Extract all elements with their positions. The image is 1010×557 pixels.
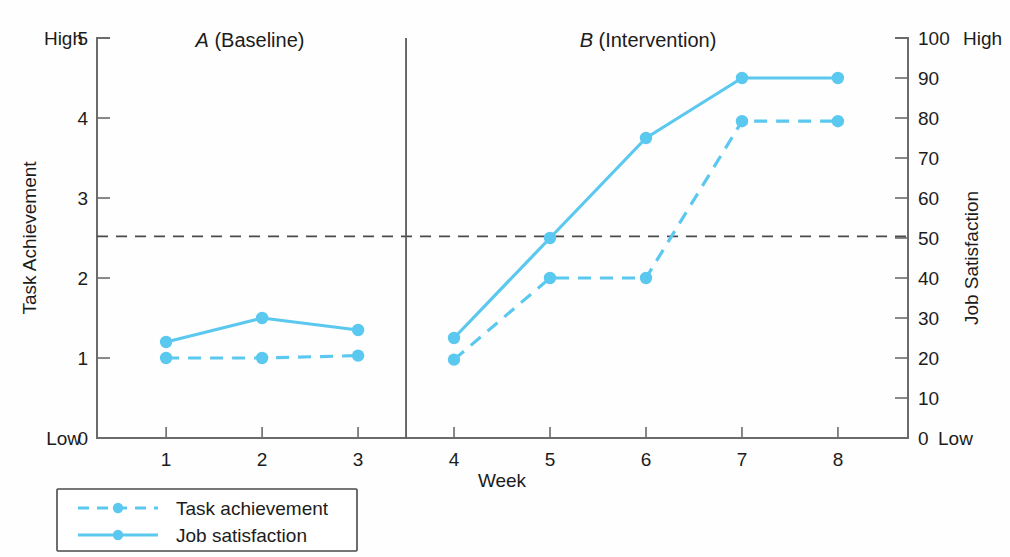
right-tick-label-100: 100: [918, 28, 950, 49]
right-axis-ticks: [895, 78, 908, 398]
line-chart-canvas: 012345 High Low Task Achievement 0102030…: [0, 0, 1010, 557]
right-tick-label-70: 70: [918, 148, 939, 169]
x-tick-label-6: 6: [641, 449, 652, 470]
legend-label: Task achievement: [176, 498, 329, 519]
right-axis-high-label: High: [963, 28, 1002, 49]
left-tick-label-3: 3: [77, 188, 88, 209]
data-point-week-8: [832, 72, 844, 84]
data-point-week-7: [736, 115, 748, 127]
right-tick-label-10: 10: [918, 388, 939, 409]
data-point-week-4: [448, 332, 460, 344]
data-point-week-3: [352, 324, 364, 336]
chart-figure: 012345 High Low Task Achievement 0102030…: [0, 0, 1010, 557]
series-job-satisfaction: [160, 72, 844, 348]
x-tick-label-4: 4: [449, 449, 460, 470]
data-point-week-6: [640, 132, 652, 144]
legend: Task achievementJob satisfaction: [57, 489, 357, 551]
left-axis-high-label: High: [44, 28, 83, 49]
data-point-week-2: [256, 312, 268, 324]
data-point-week-4: [448, 353, 460, 365]
left-tick-label-2: 2: [77, 268, 88, 289]
right-axis-tick-labels: 0102030405060708090100: [918, 28, 950, 449]
right-axis-low-label: Low: [938, 428, 973, 449]
left-axis-tick-labels: 012345: [77, 28, 88, 449]
left-axis-line: [97, 38, 110, 438]
data-point-week-8: [832, 115, 844, 127]
data-point-week-5: [544, 232, 556, 244]
right-tick-label-80: 80: [918, 108, 939, 129]
x-tick-label-2: 2: [257, 449, 268, 470]
x-axis-group: 12345678 Week: [97, 427, 908, 491]
right-axis-group: 0102030405060708090100 High Low Job Sati…: [895, 28, 1002, 449]
series-segment-phase-b: [454, 121, 838, 359]
data-point-week-1: [160, 336, 172, 348]
right-tick-label-60: 60: [918, 188, 939, 209]
left-tick-label-1: 1: [77, 348, 88, 369]
series-task-achievement: [160, 115, 844, 366]
phase-b-letter: B: [580, 29, 593, 51]
x-tick-label-5: 5: [545, 449, 556, 470]
left-axis-group: 012345 High Low Task Achievement: [19, 28, 110, 449]
data-series-layer: [160, 72, 844, 366]
phase-b-name: (Intervention): [599, 29, 717, 51]
legend-swatch-marker: [113, 503, 123, 513]
right-tick-label-40: 40: [918, 268, 939, 289]
x-axis-ticks: [166, 427, 838, 438]
legend-label: Job satisfaction: [176, 525, 307, 546]
data-point-week-7: [736, 72, 748, 84]
legend-swatch-marker: [113, 530, 123, 540]
right-tick-label-90: 90: [918, 68, 939, 89]
x-axis-tick-labels: 12345678: [161, 449, 843, 470]
x-tick-label-8: 8: [833, 449, 844, 470]
x-tick-label-7: 7: [737, 449, 748, 470]
right-tick-label-30: 30: [918, 308, 939, 329]
x-axis-title: Week: [478, 470, 527, 491]
left-axis-low-label: Low: [46, 428, 81, 449]
left-tick-label-4: 4: [77, 108, 88, 129]
data-point-week-2: [256, 352, 268, 364]
phase-label-b: B (Intervention): [580, 29, 717, 51]
data-point-week-1: [160, 352, 172, 364]
data-point-week-5: [544, 272, 556, 284]
right-axis-title: Job Satisfaction: [961, 191, 982, 325]
phase-label-a: A (Baseline): [195, 29, 305, 51]
x-tick-label-3: 3: [353, 449, 364, 470]
phase-a-letter: A: [195, 29, 209, 51]
left-axis-title: Task Achievement: [19, 161, 40, 315]
right-tick-label-20: 20: [918, 348, 939, 369]
data-point-week-6: [640, 272, 652, 284]
left-axis-ticks: [97, 118, 110, 358]
right-tick-label-50: 50: [918, 228, 939, 249]
x-tick-label-1: 1: [161, 449, 172, 470]
series-segment-phase-b: [454, 78, 838, 338]
data-point-week-3: [352, 349, 364, 361]
right-tick-label-0: 0: [918, 428, 929, 449]
phase-a-name: (Baseline): [214, 29, 304, 51]
